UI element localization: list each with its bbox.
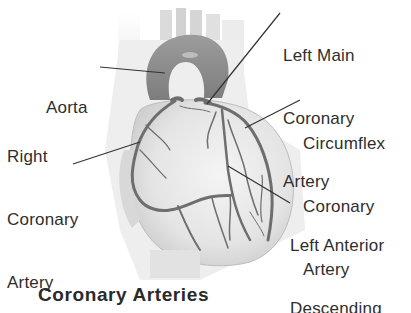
label-line: Descending — [290, 298, 384, 313]
label-line: Left Main — [283, 45, 355, 66]
label-line: Circumflex — [303, 133, 385, 154]
label-line: Right — [7, 146, 79, 167]
label-line: Left Anterior — [290, 235, 384, 256]
label-line: Coronary — [7, 209, 79, 230]
label-left-anterior-descending-coronary-artery: Left Anterior Descending Coronary Artery — [290, 193, 384, 313]
label-right-coronary-artery: Right Coronary Artery — [7, 104, 79, 313]
coronary-arteries-diagram: Aorta Right Coronary Artery Left Main Co… — [0, 0, 411, 313]
diagram-title: Coronary Arteries — [38, 284, 209, 306]
